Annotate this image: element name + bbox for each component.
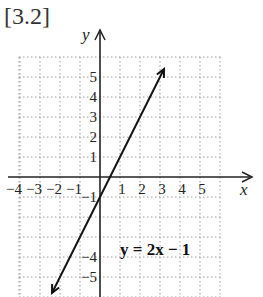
y-tick-label: 2 [90, 129, 98, 145]
x-tick-label: 5 [198, 181, 206, 197]
y-tick-label: 5 [90, 69, 98, 85]
equation-label: y = 2x − 1 [120, 240, 190, 259]
y-tick-label: 3 [90, 109, 98, 125]
x-tick-label: 2 [138, 181, 146, 197]
x-tick-label: 4 [178, 181, 186, 197]
x-tick-label: −2 [46, 181, 62, 197]
x-tick-label: 1 [118, 181, 126, 197]
y-tick-label: −4 [81, 249, 97, 265]
x-tick-label: −3 [26, 181, 42, 197]
x-axis-label: x [239, 180, 248, 199]
coordinate-plane: yx −4−3−2−11234554321−1−4−5 y = 2x − 1 [0, 0, 263, 297]
x-tick-label: −4 [6, 181, 22, 197]
y-tick-label: 1 [90, 149, 98, 165]
x-tick-label: 3 [158, 181, 166, 197]
y-tick-label: −1 [81, 189, 97, 205]
x-tick-label: −1 [66, 181, 82, 197]
y-axis-label: y [80, 25, 90, 44]
y-tick-label: 4 [90, 89, 98, 105]
y-tick-label: −5 [81, 269, 97, 285]
